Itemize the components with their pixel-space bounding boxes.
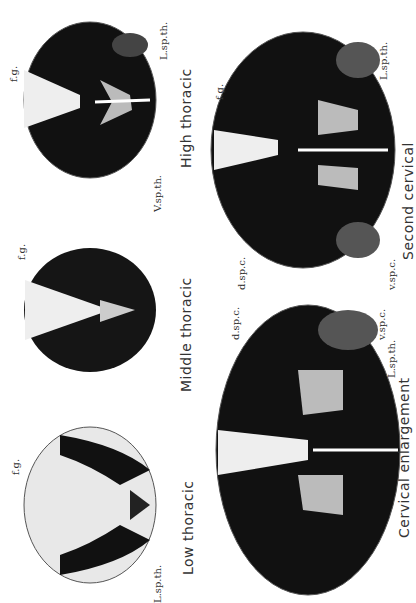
- caption-middle-thoracic: Middle thoracic: [178, 277, 194, 392]
- caption-cervical-enlargement: Cervical enlargement: [396, 377, 412, 538]
- label-lateral-spinothalamic: L.sp.th.: [158, 22, 169, 60]
- label-fg: f.g.: [10, 459, 21, 475]
- section-middle-thoracic: f.g. Middle thoracic: [0, 230, 200, 400]
- caption-high-thoracic: High thoracic: [178, 68, 194, 168]
- label-ventral-spinocerebellar: v.sp.c.: [376, 309, 387, 340]
- label-ventral-spinothalamic: V.sp.th.: [152, 175, 163, 212]
- label-lateral-spinothalamic: L.sp.th.: [378, 42, 389, 80]
- section-second-cervical: f.g. L.sp.th. d.sp.c. v.sp.c. Second cer…: [208, 0, 416, 290]
- label-lateral-spinothalamic: L.sp.th.: [386, 340, 397, 378]
- label-lateral-spinothalamic: L.sp.th.: [152, 565, 163, 603]
- spinal-cord-section-cervical-enlargement: [208, 300, 416, 603]
- label-dorsal-spinocerebellar: d.sp.c.: [236, 257, 247, 290]
- caption-second-cervical: Second cervical: [400, 142, 416, 260]
- spinal-cord-section-low-thoracic: [0, 415, 200, 603]
- section-high-thoracic: f.g. L.sp.th. V.sp.th. High thoracic: [0, 0, 200, 210]
- spinal-cord-section-high-thoracic: [0, 0, 200, 210]
- label-dorsal-spinocerebellar: d.sp.c.: [230, 307, 241, 340]
- label-fg: f.g.: [214, 84, 225, 100]
- label-fg: f.g.: [16, 244, 27, 260]
- section-cervical-enlargement: d.sp.c. v.sp.c. L.sp.th. Cervical enlarg…: [208, 300, 416, 603]
- label-ventral-spinocerebellar: v.sp.c.: [386, 259, 397, 290]
- spinal-cord-section-middle-thoracic: [0, 230, 200, 400]
- section-low-thoracic: f.g. L.sp.th. Low thoracic: [0, 415, 200, 603]
- label-fg: f.g.: [8, 66, 19, 82]
- caption-low-thoracic: Low thoracic: [180, 480, 196, 575]
